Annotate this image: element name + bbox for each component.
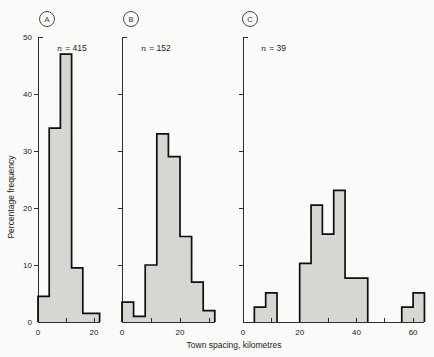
x-tick-label-B-20: 20 (176, 328, 185, 337)
panel-a-sample-size: n= 415 (57, 43, 87, 53)
panel-c-n-value: = 39 (269, 43, 286, 53)
y-tick-label-10: 10 (23, 261, 32, 270)
panel-b-sample-size: n= 152 (141, 43, 171, 53)
x-tick-label-C-60: 60 (409, 328, 418, 337)
panel-b-letter: B (128, 15, 133, 24)
three-panel-histogram-figure: 020010203040500200204060 A B C n= 415 n=… (0, 0, 434, 357)
panel-b-label-circle: B (123, 11, 139, 27)
x-tick-label-B-0: 0 (120, 328, 125, 337)
y-tick-label-50: 50 (23, 33, 32, 42)
y-tick-label-40: 40 (23, 90, 32, 99)
panel-c-sample-size: n= 39 (261, 43, 286, 53)
panel-c-n-symbol: n (261, 44, 266, 53)
y-axis-title: Percentage frequency (6, 155, 16, 238)
panel-b-n-symbol: n (141, 44, 146, 53)
x-tick-label-A-0: 0 (36, 328, 41, 337)
x-tick-label-A-20: 20 (90, 328, 99, 337)
panel-c-letter: C (247, 15, 252, 24)
panel-a-n-value: = 415 (65, 43, 87, 53)
x-tick-label-C-40: 40 (352, 328, 361, 337)
histogram-plot-canvas: 020010203040500200204060 (0, 0, 434, 357)
histogram-fill-A-0 (38, 54, 100, 322)
panel-a-n-symbol: n (57, 44, 62, 53)
x-tick-label-C-20: 20 (295, 328, 304, 337)
y-tick-label-20: 20 (23, 204, 32, 213)
panel-b-n-value: = 152 (149, 43, 171, 53)
x-axis-title: Town spacing, kilometres (187, 340, 282, 350)
y-tick-label-30: 30 (23, 147, 32, 156)
y-tick-label-0: 0 (28, 318, 33, 327)
panel-a-label-circle: A (39, 11, 55, 27)
histogram-fill-B-0 (122, 134, 215, 322)
panel-a-letter: A (44, 15, 49, 24)
panel-c-label-circle: C (242, 11, 258, 27)
x-tick-label-C-0: 0 (241, 328, 246, 337)
